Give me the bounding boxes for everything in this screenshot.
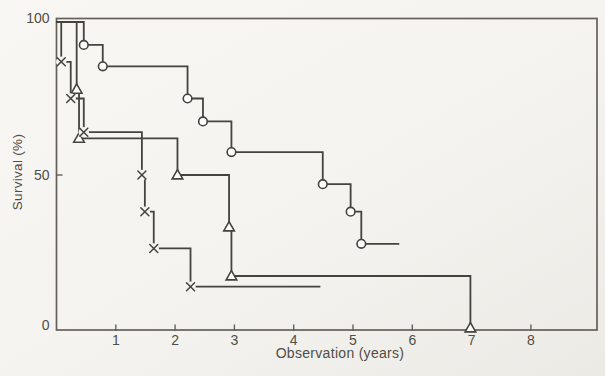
x-tick-label: 1: [112, 332, 120, 348]
circle-marker: [357, 240, 366, 249]
survival-chart-canvas: 12345678050100: [0, 0, 605, 376]
series-group-triangle-path: [57, 22, 471, 328]
x-tick-label: 6: [408, 332, 416, 348]
y-tick-label: 100: [26, 10, 50, 26]
y-tick-label: 50: [34, 167, 50, 183]
series-group-cross-path: [57, 22, 321, 287]
circle-marker: [346, 207, 355, 216]
survival-chart-figure: 12345678050100 Observation (years) Survi…: [0, 0, 605, 376]
y-axis-title: Survival (%): [10, 134, 25, 210]
circle-marker: [98, 62, 107, 71]
x-tick-label: 7: [468, 332, 476, 348]
circle-marker: [227, 148, 236, 157]
circle-marker: [318, 180, 327, 189]
x-tick-label: 2: [171, 332, 179, 348]
circle-marker: [79, 41, 88, 50]
x-axis-title: Observation (years): [276, 345, 405, 361]
x-tick-label: 3: [231, 332, 239, 348]
circle-marker: [199, 117, 208, 126]
circle-marker: [183, 94, 192, 103]
triangle-marker: [71, 84, 82, 93]
x-tick-label: 8: [527, 332, 535, 348]
triangle-marker: [465, 323, 476, 332]
triangle-marker: [224, 222, 235, 231]
y-tick-label: 0: [42, 317, 50, 333]
